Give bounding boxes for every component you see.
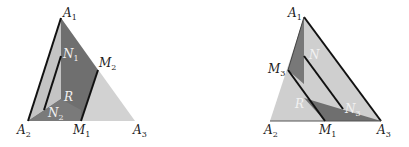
label-right-a2: A2: [263, 123, 278, 139]
label-right-m3: M3: [267, 62, 285, 78]
label-left-m2: M2: [98, 56, 116, 72]
label-left-a2: A2: [16, 123, 31, 139]
label-right-a3: A3: [376, 123, 391, 139]
label-left-m1: M1: [72, 123, 90, 139]
diagram-canvas: A1 N1 M2 R N2 A2 M1 A3 A1 N M3 R N3 A2 M…: [0, 0, 409, 147]
label-right-n: N: [308, 48, 320, 62]
label-right-r: R: [294, 97, 304, 111]
left-triangle-figure: [28, 18, 135, 121]
label-left-r: R: [63, 90, 73, 104]
label-right-m1: M1: [318, 123, 336, 139]
label-left-a1: A1: [62, 6, 77, 22]
right-triangle-figure: [270, 17, 381, 121]
label-right-a1: A1: [287, 6, 302, 22]
label-left-a3: A3: [132, 123, 147, 139]
